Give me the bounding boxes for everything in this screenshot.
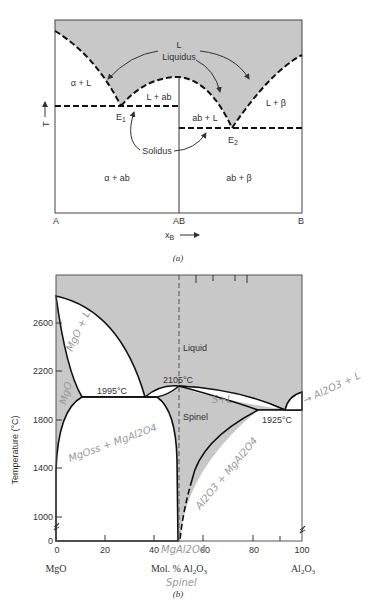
y-tick-1800: 1800 [33, 415, 53, 425]
y-tick-2200: 2200 [33, 366, 53, 376]
label-l-ab: L + ab [147, 92, 172, 102]
y-axis-label-a: T [41, 121, 51, 127]
label-2105: 2105°C [163, 375, 194, 385]
component-al2o3: Al2O3 [291, 563, 316, 576]
label-e1: E1 [116, 112, 126, 123]
y-tick-1000: 1000 [33, 512, 53, 522]
x-tick-80: 80 [249, 545, 259, 555]
mgo-spinel-region [56, 397, 178, 541]
diagram-a: L Liquidus α + L L + ab ab + L L + β α +… [41, 20, 304, 263]
y-tick-2600: 2600 [33, 318, 53, 328]
handwriting-mgal2o4: MgAl2O4 [161, 544, 206, 555]
label-1925: 1925°C [262, 415, 293, 425]
label-liquid: Liquid [183, 343, 207, 353]
label-ab-beta: ab + β [226, 173, 251, 183]
label-l: L [176, 40, 181, 50]
caption-b: (b) [173, 589, 184, 599]
y-tick-1400: 1400 [33, 463, 53, 473]
label-1995: 1995°C [97, 386, 128, 396]
label-e2: E2 [228, 135, 238, 146]
label-l-beta: L + β [266, 98, 286, 108]
label-alpha-l: α + L [71, 78, 91, 88]
label-ab-l: ab + L [192, 113, 217, 123]
label-liquidus: Liquidus [162, 52, 196, 62]
y-tick-0: 0 [48, 536, 53, 546]
phase-diagrams: L Liquidus α + L L + ab ab + L L + β α +… [0, 0, 389, 615]
label-solidus: Solidus [142, 146, 172, 156]
label-alpha-ab: α + ab [104, 173, 129, 183]
solidus-arrow-left [131, 112, 140, 150]
x-tick-20: 20 [100, 545, 110, 555]
x-tick-a: A [53, 216, 59, 226]
component-mgo: MgO [45, 563, 66, 574]
x-tick-40: 40 [149, 545, 159, 555]
handwriting-spinel: Spinel [166, 577, 197, 588]
y-axis-label-b: Temperature (°C) [10, 415, 20, 484]
handwriting-al2o3-l: → Al2O3 + L [301, 370, 362, 406]
x-tick-100: 100 [294, 545, 309, 555]
x-tick-b: B [298, 216, 304, 226]
x-tick-0: 0 [54, 545, 59, 555]
handwriting-s-l: S+L [212, 394, 232, 405]
label-spinel: Spinel [183, 412, 208, 422]
caption-a: (a) [173, 253, 184, 263]
x-axis-label-b: Mol. % Al2O3 [151, 563, 208, 576]
diagram-b: 2600 2200 1800 1400 1000 0 0 20 40 60 80… [10, 275, 362, 599]
x-axis-label-a: xB [165, 230, 175, 241]
x-tick-ab: AB [173, 216, 185, 226]
